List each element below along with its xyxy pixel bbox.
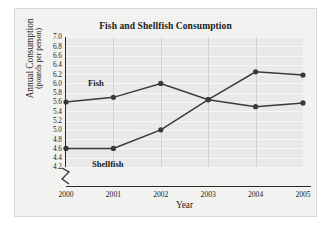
y-axis-title-units: (pounds per person)	[35, 0, 44, 128]
data-point-shellfish-2005	[300, 72, 305, 77]
x-axis-title: Year	[66, 200, 303, 210]
data-point-fish-2001	[111, 95, 116, 100]
y-axis-title: Annual Consumption (pounds per person)	[25, 0, 44, 128]
y-axis-tick-label: 4.2	[53, 163, 62, 170]
x-axis-line	[66, 186, 311, 187]
data-point-fish-2005	[300, 100, 305, 105]
x-axis-tick-label: 2002	[153, 190, 168, 199]
y-axis-tick-label: 6.2	[53, 71, 62, 78]
y-axis-tick-label: 6.8	[53, 43, 62, 50]
y-axis-tick-label: 5.0	[53, 126, 62, 133]
y-axis-tick-label: 5.6	[53, 98, 62, 105]
y-axis-line	[65, 37, 66, 167]
x-axis-tick-label: 2003	[201, 190, 216, 199]
y-axis-tick-label: 6.4	[53, 61, 62, 68]
x-axis-tick-label: 2004	[248, 190, 263, 199]
chart-title: Fish and Shellfish Consumption	[15, 21, 316, 31]
x-axis-tick-label: 2000	[58, 190, 73, 199]
plot-area	[66, 37, 303, 167]
y-axis-tick-label: 6.6	[53, 52, 62, 59]
data-point-fish-2002	[158, 81, 163, 86]
y-axis-tick-label: 6.0	[53, 80, 62, 87]
y-axis-tick-label: 7.0	[53, 33, 62, 40]
y-axis-tick-label: 5.8	[53, 89, 62, 96]
data-point-shellfish-2004	[253, 69, 258, 74]
x-axis-tick-label: 2001	[106, 190, 121, 199]
y-axis-tick-label: 5.2	[53, 117, 62, 124]
y-axis-tick-label: 4.6	[53, 145, 62, 152]
y-axis-tick-label: 4.8	[53, 136, 62, 143]
data-point-shellfish-2002	[158, 127, 163, 132]
axis-break-icon	[60, 167, 74, 187]
series-label-fish: Fish	[88, 78, 104, 88]
data-point-fish-2004	[253, 104, 258, 109]
x-axis-tick-label: 2005	[295, 190, 310, 199]
series-lines	[66, 37, 303, 167]
data-point-shellfish-2001	[111, 146, 116, 151]
series-label-shellfish: Shellfish	[92, 159, 124, 169]
y-axis-tick-label: 5.4	[53, 108, 62, 115]
y-axis-tick-label: 4.4	[53, 154, 62, 161]
chart-figure: Fish and Shellfish Consumption 7.06.86.6…	[14, 8, 317, 217]
data-point-shellfish-2003	[206, 97, 211, 102]
